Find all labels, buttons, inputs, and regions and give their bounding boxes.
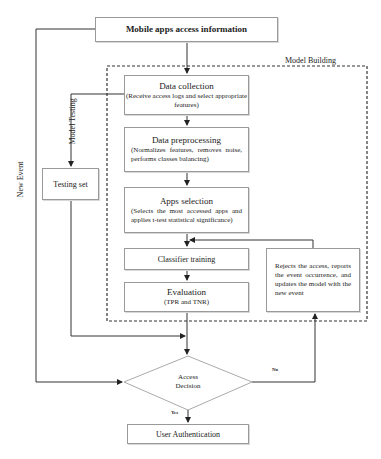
data-collection-sub: (Receive access logs and select appropri… <box>125 92 248 110</box>
apps-selection-sub: (Selects the most accessed apps and appl… <box>125 207 248 225</box>
data-collection-box: Data collection (Receive access logs and… <box>124 75 249 115</box>
yes-label: Yes <box>171 410 178 415</box>
model-building-label: Model Building <box>285 56 336 65</box>
data-preprocessing-title: Data preprocessing <box>152 135 221 146</box>
evaluation-sub: (TPR and TNR) <box>164 298 209 307</box>
classifier-training-box: Classifier training <box>124 248 249 270</box>
mobile-apps-access-box: Mobile apps access information <box>95 17 278 42</box>
data-collection-title: Data collection <box>159 81 214 92</box>
user-authentication-label: User Authentication <box>156 430 220 439</box>
evaluation-box: Evaluation (TPR and TNR) <box>124 282 249 312</box>
apps-selection-title: Apps selection <box>160 196 213 207</box>
testing-set-label: Testing set <box>53 180 87 189</box>
rejects-access-text: Rejects the access, reports the event oc… <box>267 262 359 298</box>
access-decision: Access Decision <box>158 373 218 391</box>
data-preprocessing-sub: (Normalizes features, removes noise, per… <box>125 146 248 164</box>
decision-line1: Access <box>158 373 218 382</box>
rejects-access-box: Rejects the access, reports the event oc… <box>266 248 360 312</box>
data-preprocessing-box: Data preprocessing (Normalizes features,… <box>124 127 249 172</box>
decision-line2: Decision <box>158 382 218 391</box>
testing-set-box: Testing set <box>42 168 99 200</box>
model-testing-label: Model Testing <box>68 105 77 145</box>
new-event-label: New Event <box>16 155 25 205</box>
user-authentication-box: User Authentication <box>127 424 249 444</box>
evaluation-title: Evaluation <box>167 287 206 298</box>
top-box-label: Mobile apps access information <box>126 24 247 35</box>
apps-selection-box: Apps selection (Selects the most accesse… <box>124 187 249 233</box>
no-label: No <box>272 367 278 372</box>
classifier-training-label: Classifier training <box>158 255 216 264</box>
